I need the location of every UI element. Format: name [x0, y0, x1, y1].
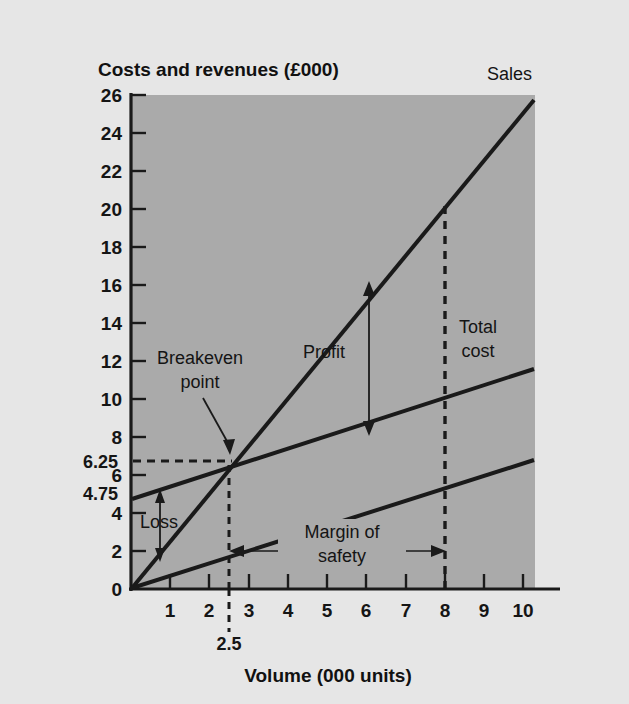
y-tick-label: 26: [101, 85, 122, 106]
x-tick-label: 9: [479, 600, 490, 621]
page-title: Costs and revenues (£000): [98, 59, 339, 80]
x-tick-label: 3: [244, 600, 255, 621]
breakeven-label-line2: point: [180, 372, 219, 392]
chart-svg: 26 24 22 20 18 16 14 12 10 8 6 4 2 0 6.2…: [0, 0, 629, 704]
profit-label: Profit: [303, 342, 345, 362]
x-tick-label: 8: [440, 600, 451, 621]
y-tick-label: 16: [101, 275, 122, 296]
y-tick-label: 2: [111, 541, 122, 562]
margin-of-safety-label-line2: safety: [318, 546, 366, 566]
y-tick-label: 4: [111, 503, 122, 524]
x-tick-label: 1: [165, 600, 176, 621]
y-tick-label: 18: [101, 237, 122, 258]
y-tick-label: 22: [101, 161, 122, 182]
x-tick-label: 7: [401, 600, 412, 621]
sales-series-label: Sales: [487, 64, 532, 84]
x-special-tick-label-25: 2.5: [216, 634, 241, 654]
x-tick-label: 2: [204, 600, 215, 621]
y-tick-label: 20: [101, 199, 122, 220]
x-axis-title: Volume (000 units): [244, 665, 412, 686]
x-tick-label: 4: [283, 600, 294, 621]
y-tick-label: 24: [101, 123, 123, 144]
x-tick-label: 10: [512, 600, 533, 621]
y-tick-label: 14: [101, 313, 123, 334]
breakeven-chart: 26 24 22 20 18 16 14 12 10 8 6 4 2 0 6.2…: [0, 0, 629, 704]
y-tick-label: 8: [111, 427, 122, 448]
y-tick-label: 0: [111, 579, 122, 600]
breakeven-label-line1: Breakeven: [157, 348, 243, 368]
y-special-tick-label-475: 4.75: [83, 484, 118, 504]
total-cost-label-line1: Total: [459, 317, 497, 337]
total-cost-label-line2: cost: [461, 341, 494, 361]
x-tick-label: 5: [322, 600, 333, 621]
x-tick-label: 6: [361, 600, 372, 621]
y-special-tick-label-625: 6.25: [83, 452, 118, 472]
y-tick-label: 10: [101, 389, 122, 410]
y-tick-label: 12: [101, 351, 122, 372]
loss-label: Loss: [140, 512, 178, 532]
margin-of-safety-label-line1: Margin of: [304, 522, 380, 542]
